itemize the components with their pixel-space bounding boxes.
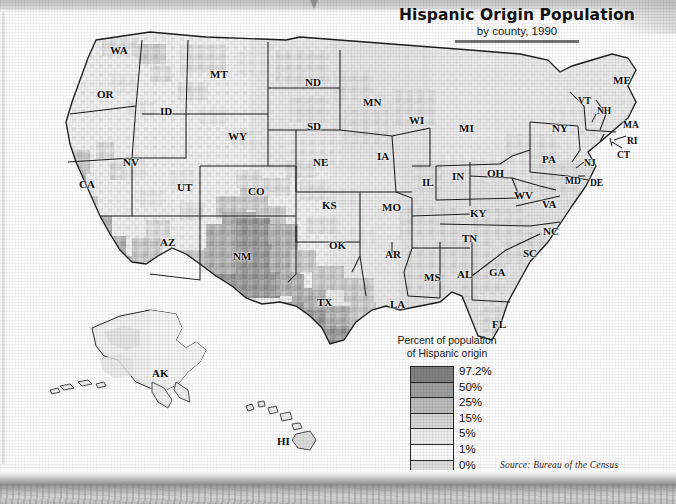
legend-title: Percent of population of Hispanic origin bbox=[372, 334, 522, 360]
alaska-inset bbox=[50, 310, 206, 408]
state-label-sd: SD bbox=[307, 120, 321, 132]
state-label-vt: VT bbox=[578, 96, 591, 106]
state-label-co: CO bbox=[248, 185, 265, 197]
source-note: Source: Bureau of the Census bbox=[500, 460, 618, 470]
legend-value-label: 25% bbox=[459, 396, 482, 408]
state-label-nm: NM bbox=[233, 250, 251, 262]
state-label-md: MD bbox=[565, 176, 581, 186]
state-label-nj: NJ bbox=[584, 158, 596, 168]
state-label-ut: UT bbox=[177, 181, 192, 193]
legend-title-line2: of Hispanic origin bbox=[372, 347, 522, 360]
legend-swatch-row: 5% bbox=[411, 429, 453, 445]
state-label-mt: MT bbox=[210, 68, 228, 80]
state-label-ok: OK bbox=[329, 239, 346, 251]
legend-swatch-row: 25% bbox=[411, 398, 453, 414]
state-label-ma: MA bbox=[623, 120, 639, 130]
state-label-me: ME bbox=[613, 74, 631, 86]
state-label-ct: CT bbox=[617, 150, 630, 160]
state-label-wv: WV bbox=[514, 189, 533, 201]
legend-swatch-row: 15% bbox=[411, 414, 453, 430]
state-label-mo: MO bbox=[382, 201, 401, 213]
state-label-nv: NV bbox=[123, 156, 139, 168]
legend-value-label: 50% bbox=[459, 381, 482, 393]
state-label-in: IN bbox=[452, 170, 464, 182]
legend-value-label: 97.2% bbox=[459, 365, 492, 377]
legend-swatch-row: 1% bbox=[411, 445, 453, 461]
state-label-ga: GA bbox=[489, 266, 506, 278]
state-label-tn: TN bbox=[462, 232, 477, 244]
legend-swatch-row: 50% bbox=[411, 383, 453, 399]
state-label-oh: OH bbox=[487, 167, 504, 179]
choropleth-map: WAORIDMTNDSDMNWIMINYVTNHMEMARICTWYNEIAIL… bbox=[0, 10, 676, 470]
state-label-ms: MS bbox=[424, 271, 441, 283]
state-label-la: LA bbox=[390, 298, 405, 310]
state-label-de: DE bbox=[590, 178, 603, 188]
state-label-nh: NH bbox=[597, 106, 611, 116]
state-label-hi: HI bbox=[277, 435, 290, 447]
state-label-ri: RI bbox=[627, 136, 638, 146]
state-label-tx: TX bbox=[317, 296, 332, 308]
state-label-ny: NY bbox=[552, 122, 568, 134]
map-legend: Percent of population of Hispanic origin… bbox=[372, 334, 522, 360]
state-label-nd: ND bbox=[305, 76, 321, 88]
state-label-wa: WA bbox=[110, 44, 128, 56]
state-label-al: AL bbox=[457, 268, 472, 280]
state-label-ca: CA bbox=[79, 178, 95, 190]
state-label-ne: NE bbox=[313, 156, 328, 168]
map-page: Hispanic Origin Population by county, 19… bbox=[0, 0, 676, 504]
state-label-mi: MI bbox=[459, 122, 474, 134]
state-label-wy: WY bbox=[228, 130, 247, 142]
state-label-az: AZ bbox=[160, 236, 175, 248]
legend-value-label: 1% bbox=[459, 443, 476, 455]
state-label-ky: KY bbox=[470, 207, 487, 219]
state-label-pa: PA bbox=[542, 153, 556, 165]
state-label-id: ID bbox=[160, 105, 172, 117]
state-label-il: IL bbox=[422, 176, 434, 188]
legend-scale: 97.2%50%25%15%5%1%0% bbox=[410, 366, 454, 476]
state-label-nc: NC bbox=[543, 225, 559, 237]
legend-value-label: 5% bbox=[459, 427, 476, 439]
legend-value-label: 0% bbox=[459, 459, 476, 471]
state-label-va: VA bbox=[542, 198, 556, 210]
scan-edge-bottom-noise bbox=[0, 484, 676, 504]
state-label-ks: KS bbox=[322, 199, 337, 211]
state-label-ak: AK bbox=[152, 367, 169, 379]
state-label-ar: AR bbox=[385, 248, 401, 260]
legend-value-label: 15% bbox=[459, 412, 482, 424]
state-label-sc: SC bbox=[523, 247, 537, 259]
legend-title-line1: Percent of population bbox=[372, 334, 522, 347]
legend-swatch-row: 97.2% bbox=[411, 367, 453, 383]
state-label-wi: WI bbox=[409, 114, 424, 126]
state-label-or: OR bbox=[97, 88, 114, 100]
state-label-ia: IA bbox=[377, 150, 389, 162]
state-label-fl: FL bbox=[492, 318, 506, 330]
state-label-mn: MN bbox=[363, 96, 381, 108]
